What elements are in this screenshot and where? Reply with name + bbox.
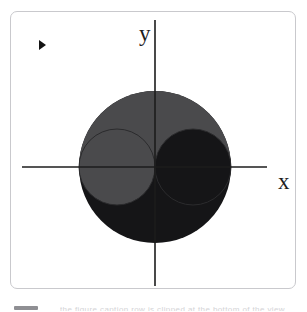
x-axis-label: x [278,170,290,193]
legend-swatch [14,306,38,310]
figure-svg [11,12,295,288]
screenshot-canvas: y x the figure caption row is clipped at… [0,0,307,312]
play-triangle-cursor-icon[interactable] [39,40,46,50]
plot-area: y x [11,12,295,288]
plot-card: y x [10,11,296,289]
clipped-caption-strip: the figure caption row is clipped at the… [0,303,307,312]
clipped-caption-text: the figure caption row is clipped at the… [60,305,293,311]
y-axis-label: y [139,22,151,45]
